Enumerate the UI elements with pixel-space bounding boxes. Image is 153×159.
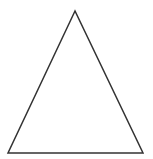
triangle-diagram [0, 0, 153, 159]
triangle-shape [8, 11, 143, 153]
diagram-canvas [0, 0, 153, 159]
